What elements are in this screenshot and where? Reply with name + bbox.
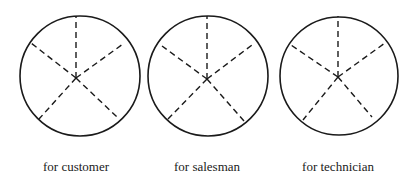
pie-technician: for technician bbox=[280, 16, 398, 174]
dashed-spoke bbox=[207, 79, 244, 121]
dashed-spoke bbox=[207, 45, 252, 79]
dashed-spoke bbox=[303, 77, 338, 120]
pie-circle bbox=[148, 16, 268, 136]
dashed-spoke bbox=[291, 45, 338, 77]
dashed-spoke bbox=[168, 79, 207, 119]
dashed-spoke bbox=[76, 44, 123, 78]
pie-dashed-spokes bbox=[291, 16, 385, 120]
pie-label-salesman: for salesman bbox=[174, 159, 241, 174]
pie-customer: for customer bbox=[20, 16, 140, 174]
pie-label-customer: for customer bbox=[43, 159, 110, 174]
dashed-spoke bbox=[76, 78, 117, 117]
pie-circle bbox=[20, 16, 140, 136]
pie-division-diagram: for customer for salesman for technician bbox=[0, 0, 413, 184]
pie-dashed-spokes bbox=[162, 16, 252, 121]
pie-label-technician: for technician bbox=[302, 159, 374, 174]
dashed-spoke bbox=[31, 43, 76, 78]
pie-dashed-spokes bbox=[31, 16, 123, 119]
dashed-spoke bbox=[338, 43, 385, 77]
dashed-spoke bbox=[338, 77, 372, 117]
dashed-spoke bbox=[39, 78, 76, 119]
pie-salesman: for salesman bbox=[148, 16, 268, 174]
dashed-spoke bbox=[162, 46, 207, 79]
